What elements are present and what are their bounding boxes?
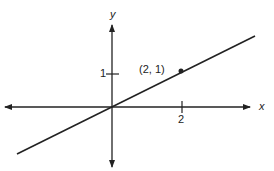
x-tick-label: 2 <box>178 114 184 125</box>
x-axis-label: x <box>259 101 265 112</box>
coordinate-plane <box>0 0 274 171</box>
y-axis-label: y <box>110 9 116 20</box>
y-tick-label: 1 <box>100 68 106 79</box>
plotted-line <box>17 36 255 154</box>
point-2-1 <box>179 69 184 74</box>
point-annotation: (2, 1) <box>139 64 165 75</box>
